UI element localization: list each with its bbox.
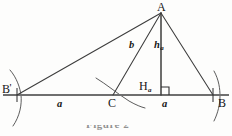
altitude-group xyxy=(161,13,169,95)
vertex-label-A: A xyxy=(157,1,166,13)
segment-label-a-left: a xyxy=(57,99,62,110)
vertex-label-B-prime-mark: ' xyxy=(10,81,12,93)
vertex-label-Ha: Ha xyxy=(139,80,151,92)
right-angle-marker-icon xyxy=(161,87,169,95)
vertex-label-B: B xyxy=(218,97,226,109)
segment-label-a-left-text: a xyxy=(57,98,62,109)
vertex-label-B-text: B xyxy=(218,96,226,110)
vertex-label-Ha-subscript: a xyxy=(148,86,152,94)
figure-root: A B' C Ha B b ha a a Figure 2 xyxy=(0,0,232,136)
segment-label-ha: ha xyxy=(154,40,163,51)
arc-at-B-prime xyxy=(10,70,21,126)
segment-label-b: b xyxy=(129,40,134,51)
segment-label-ha-subscript: a xyxy=(160,44,164,52)
vertex-label-Ha-text: H xyxy=(139,79,148,93)
side-A-to-B xyxy=(161,13,213,95)
segment-label-a-right-text: a xyxy=(162,98,167,109)
segment-label-ha-text: h xyxy=(154,39,160,50)
triangle-lines xyxy=(17,13,213,95)
vertex-label-B-prime: B' xyxy=(2,83,12,95)
figure-caption-text: Figure 2 xyxy=(86,125,129,130)
segment-label-a-right: a xyxy=(162,99,167,110)
cevian-A-to-C xyxy=(113,13,161,95)
figure-caption-strip: Figure 2 xyxy=(0,125,232,136)
segment-label-b-text: b xyxy=(129,39,134,50)
figure-drawing-canvas xyxy=(0,0,232,136)
vertex-label-C: C xyxy=(108,97,116,109)
vertex-label-C-text: C xyxy=(108,96,116,110)
vertex-label-B-prime-text: B xyxy=(2,82,10,96)
vertex-label-A-text: A xyxy=(157,0,166,14)
